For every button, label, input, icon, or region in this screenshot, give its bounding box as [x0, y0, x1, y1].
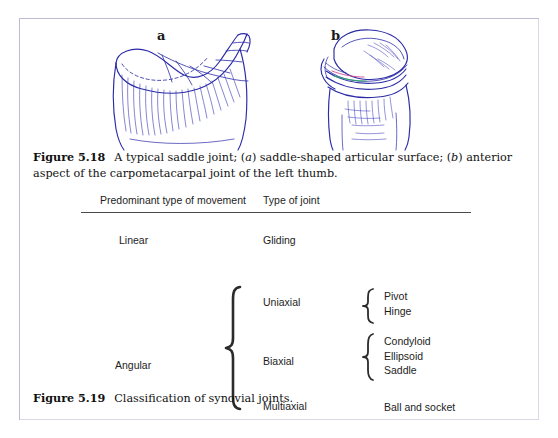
joint-group-biaxial: Biaxial — [263, 355, 294, 367]
table-header-rule — [81, 212, 471, 213]
column-header-predominant-movement: Predominant type of movement — [100, 194, 246, 206]
figure-518-caption-number: Figure 5.18 — [33, 150, 105, 164]
synovial-joint-classification-table: Predominant type of movement Type of joi… — [20, 194, 540, 384]
row-label-angular: Angular — [115, 359, 151, 371]
column-header-type-of-joint: Type of joint — [263, 194, 320, 206]
carpometacarpal-joint-illustration — [290, 19, 440, 151]
joint-type-pivot: Pivot — [384, 289, 411, 304]
joint-type-saddle: Saddle — [384, 363, 431, 378]
joint-group-uniaxial: Uniaxial — [263, 296, 300, 308]
figure-518-caption-text-1: A typical saddle joint; ( — [114, 151, 245, 164]
joint-group-gliding: Gliding — [263, 234, 296, 246]
figure-518-caption-text-2: ) saddle-shaped articular surface; ( — [252, 151, 451, 164]
joint-type-condyloid: Condyloid — [384, 334, 431, 349]
figure-519-caption-number: Figure 5.19 — [33, 391, 105, 405]
uniaxial-group-brace — [360, 287, 380, 325]
biaxial-group-brace — [360, 332, 380, 382]
joint-type-list-uniaxial: Pivot Hinge — [384, 289, 411, 318]
saddle-surface-illustration — [100, 19, 260, 151]
figure-518-caption: Figure 5.18A typical saddle joint; (a) s… — [33, 150, 531, 181]
figure-plate: a b — [19, 18, 539, 420]
illustration-area: a b — [20, 19, 540, 149]
figure-519-caption-text: Classification of synovial joints. — [114, 392, 293, 405]
row-label-linear: Linear — [119, 234, 148, 246]
joint-type-hinge: Hinge — [384, 304, 411, 319]
page-canvas: a b — [0, 0, 558, 438]
figure-518-caption-italic-a: a — [245, 151, 252, 164]
joint-type-list-biaxial: Condyloid Ellipsoid Saddle — [384, 334, 431, 378]
joint-type-ellipsoid: Ellipsoid — [384, 349, 431, 364]
figure-519-caption: Figure 5.19Classification of synovial jo… — [33, 391, 503, 407]
